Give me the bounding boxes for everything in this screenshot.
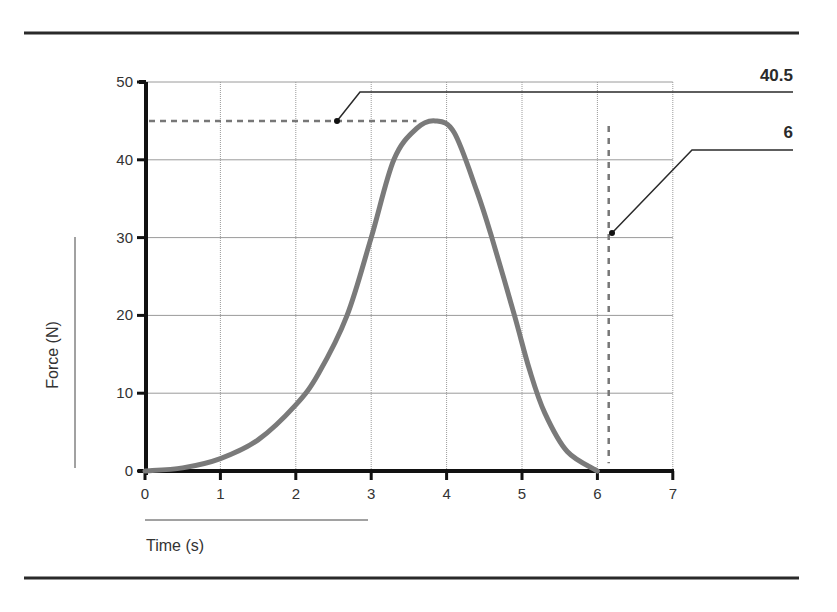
x-tick-label: 0 xyxy=(141,485,149,502)
y-axis-title: Force (N) xyxy=(44,321,61,389)
x-tick-label: 3 xyxy=(367,485,375,502)
y-tick-label: 20 xyxy=(116,306,133,323)
peak-callout-leader xyxy=(337,92,793,121)
grid xyxy=(145,82,673,471)
x-ticks: 01234567 xyxy=(141,471,677,502)
x-tick-label: 7 xyxy=(669,485,677,502)
peak-callout-label: 40.5 xyxy=(760,66,793,85)
x-tick-label: 6 xyxy=(593,485,601,502)
x-axis-title: Time (s) xyxy=(146,537,204,554)
time-callout-leader xyxy=(612,150,793,233)
peak-callout-dot xyxy=(334,118,340,124)
x-tick-label: 1 xyxy=(216,485,224,502)
force-time-chart: 01234567 01020304050 40.5 6 Force (N) Ti… xyxy=(0,0,837,612)
y-tick-label: 30 xyxy=(116,229,133,246)
time-callout-label: 6 xyxy=(784,123,793,142)
x-tick-label: 4 xyxy=(442,485,450,502)
y-tick-label: 10 xyxy=(116,384,133,401)
y-ticks: 01020304050 xyxy=(116,73,145,479)
time-callout-dot xyxy=(609,230,615,236)
y-tick-label: 40 xyxy=(116,151,133,168)
x-tick-label: 2 xyxy=(292,485,300,502)
y-tick-label: 50 xyxy=(116,73,133,90)
y-tick-label: 0 xyxy=(125,462,133,479)
x-tick-label: 5 xyxy=(518,485,526,502)
